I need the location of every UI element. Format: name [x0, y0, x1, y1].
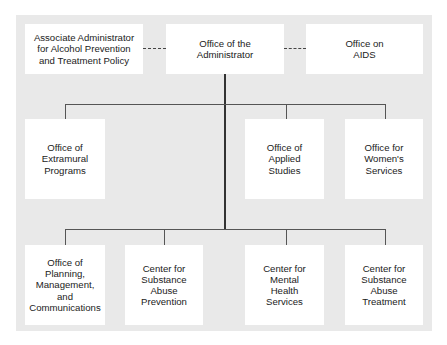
box-office-of-extramural-programs: Office of Extramural Programs — [25, 119, 105, 199]
box-center-for-substance-abuse-treatment: Center for Substance Abuse Treatment — [345, 245, 423, 325]
middle-drop-3 — [385, 104, 386, 119]
box-office-of-planning-management-communications: Office of Planning, Management, and Comm… — [25, 245, 105, 325]
main-trunk-line — [224, 74, 226, 229]
dashed-connector-left — [143, 48, 166, 49]
middle-drop-1 — [65, 104, 66, 119]
box-label: Associate Administrator for Alcohol Prev… — [34, 32, 134, 66]
box-office-on-aids: Office on AIDS — [306, 24, 423, 74]
box-office-for-womens-services: Office for Women's Services — [345, 119, 423, 199]
bottom-drop-2 — [164, 229, 165, 245]
box-label: Office of Extramural Programs — [42, 142, 88, 176]
box-label: Center for Substance Abuse Prevention — [141, 263, 187, 308]
box-label: Office on AIDS — [345, 38, 383, 60]
box-associate-administrator: Associate Administrator for Alcohol Prev… — [25, 24, 143, 74]
box-center-for-mental-health-services: Center for Mental Health Services — [245, 245, 324, 325]
bottom-drop-4 — [385, 229, 386, 245]
bottom-row-connector — [65, 229, 386, 230]
box-office-of-applied-studies: Office of Applied Studies — [245, 119, 324, 199]
box-label: Center for Mental Health Services — [263, 263, 306, 308]
middle-row-connector — [65, 104, 386, 105]
box-label: Office of Planning, Management, and Comm… — [29, 257, 100, 313]
bottom-drop-3 — [286, 229, 287, 245]
dashed-connector-right — [284, 48, 306, 49]
middle-drop-2 — [286, 104, 287, 119]
box-label: Office of Applied Studies — [267, 142, 303, 176]
box-office-of-the-administrator: Office of the Administrator — [166, 24, 284, 74]
box-label: Office for Women's Services — [364, 142, 404, 176]
box-label: Office of the Administrator — [197, 38, 254, 60]
box-label: Center for Substance Abuse Treatment — [361, 263, 406, 308]
bottom-drop-1 — [65, 229, 66, 245]
box-center-for-substance-abuse-prevention: Center for Substance Abuse Prevention — [125, 245, 203, 325]
